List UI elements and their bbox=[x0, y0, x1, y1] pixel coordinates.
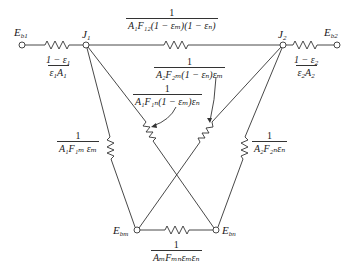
frac-num: 1 bbox=[172, 239, 181, 250]
resistance-1m-label: 1 A₁F₁ₘ εₘ bbox=[57, 130, 99, 154]
label-j1-sub: 1 bbox=[87, 34, 91, 42]
resistance-mn-label: 1 AₘFₘₙεₘεₙ bbox=[151, 239, 202, 263]
wire-j1-r1m bbox=[87, 48, 110, 137]
num-text: 1 − ε bbox=[46, 54, 67, 65]
node-j1 bbox=[83, 42, 89, 48]
wire-j2-r2n bbox=[245, 48, 282, 137]
node-j2 bbox=[280, 42, 286, 48]
label-ebm-sub: bm bbox=[120, 230, 129, 238]
wire-r1n-ebn bbox=[153, 141, 214, 228]
frac-den: A₁F₁ₘ εₘ bbox=[57, 141, 99, 154]
frac-den: A₂F₂ₙεₙ bbox=[252, 141, 287, 154]
label-eb1-main: E bbox=[14, 26, 21, 38]
resistor-mn-icon bbox=[165, 226, 189, 234]
label-ebn: Ebn bbox=[222, 225, 236, 236]
label-ebn-main: E bbox=[222, 224, 229, 236]
wire-r2n-ebn bbox=[218, 159, 243, 227]
frac-num: 1 bbox=[73, 130, 82, 141]
label-ebn-sub: bn bbox=[229, 230, 236, 238]
arrowhead-r2m-icon bbox=[207, 118, 212, 123]
den-b-sub: 1 bbox=[63, 72, 67, 80]
num-text: 1 − ε bbox=[294, 54, 315, 65]
resistance-2m-label: 1 A₂F₂ₘ(1 − εₙ)εₘ bbox=[154, 56, 225, 80]
leader-r2m-arrow bbox=[210, 77, 216, 121]
label-eb1-sub: b1 bbox=[21, 32, 28, 40]
node-eb1 bbox=[19, 42, 25, 48]
frac-den: ε2A2 bbox=[296, 65, 317, 78]
resistance-2n-label: 1 A₂F₂ₙεₙ bbox=[252, 130, 287, 154]
frac-num: 1 − ε2 bbox=[292, 54, 320, 65]
leader-r1n-arrow bbox=[153, 107, 176, 126]
resistance-12-label: 1 A₁F₁₂(1 − εₘ)(1 − εₙ) bbox=[126, 7, 218, 31]
radiation-network-diagram bbox=[0, 0, 353, 274]
arrowhead-r1n-icon bbox=[151, 123, 157, 128]
frac-num: 1 bbox=[185, 56, 194, 67]
resistance-surface2-label: 1 − ε2 ε2A2 bbox=[292, 54, 320, 78]
resistor-surface2-icon bbox=[293, 41, 317, 49]
resistor-surface1-icon bbox=[45, 41, 69, 49]
resistor-12-icon bbox=[164, 41, 188, 49]
node-eb2 bbox=[334, 42, 340, 48]
frac-den: ε1A1 bbox=[48, 65, 69, 78]
resistor-1m-icon bbox=[107, 137, 114, 159]
label-eb1: Eb1 bbox=[14, 27, 28, 38]
wire-r1m-ebm bbox=[111, 159, 135, 227]
label-eb2-main: E bbox=[324, 26, 331, 38]
frac-num: 1 bbox=[265, 130, 274, 141]
node-ebm bbox=[134, 227, 140, 233]
node-ebn bbox=[213, 227, 219, 233]
wire-r2m-ebm bbox=[139, 142, 200, 228]
frac-den: A₂F₂ₘ(1 − εₙ)εₘ bbox=[154, 67, 225, 80]
label-ebm: Ebm bbox=[113, 225, 128, 236]
frac-num: 1 bbox=[163, 83, 172, 94]
resistance-surface1-label: 1 − ε1 ε1A1 bbox=[44, 54, 72, 78]
label-eb2-sub: b2 bbox=[331, 32, 338, 40]
label-eb2: Eb2 bbox=[324, 27, 338, 38]
label-j2: J2 bbox=[278, 29, 286, 40]
label-j2-sub: 2 bbox=[283, 34, 287, 42]
resistor-2m-icon bbox=[198, 122, 213, 142]
label-j1: J1 bbox=[82, 29, 90, 40]
frac-den: AₘFₘₙεₘεₙ bbox=[151, 250, 202, 263]
frac-den: A₁F₁ₙ(1 − εₘ)εₙ bbox=[133, 94, 202, 107]
label-ebm-main: E bbox=[113, 224, 120, 236]
resistance-1n-label: 1 A₁F₁ₙ(1 − εₘ)εₙ bbox=[133, 83, 202, 107]
frac-num: 1 − ε1 bbox=[44, 54, 72, 65]
frac-num: 1 bbox=[167, 7, 176, 18]
den-b-sub: 2 bbox=[311, 72, 315, 80]
resistor-2n-icon bbox=[241, 137, 248, 159]
frac-den: A₁F₁₂(1 − εₘ)(1 − εₙ) bbox=[126, 18, 218, 31]
